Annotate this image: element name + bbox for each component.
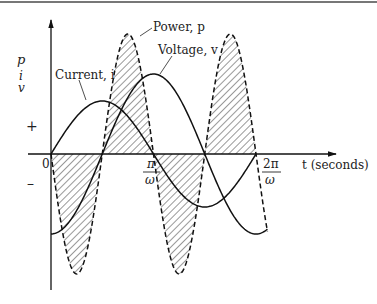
tick-pi-numerator: π bbox=[146, 157, 156, 171]
current-label: Current, i bbox=[55, 68, 115, 82]
current-leader-line bbox=[79, 80, 86, 100]
y-label-v: v bbox=[18, 81, 25, 95]
tick-pi-denominator: ω bbox=[145, 173, 155, 187]
tick-2pi-denominator: ω bbox=[265, 173, 275, 187]
power-leader-line bbox=[140, 28, 152, 36]
y-label-p: p bbox=[17, 52, 26, 67]
minus-sign: – bbox=[27, 175, 34, 191]
plus-sign: + bbox=[26, 118, 38, 134]
x-axis-label: t (seconds) bbox=[302, 158, 369, 172]
power-voltage-current-diagram: p i v + – 0 π ω 2π ω t (seconds) Power, … bbox=[0, 0, 377, 304]
power-label: Power, p bbox=[153, 20, 205, 34]
origin-label: 0 bbox=[42, 157, 50, 171]
voltage-label: Voltage, v bbox=[157, 43, 218, 57]
tick-2pi-numerator: 2π bbox=[263, 157, 279, 171]
voltage-leader-line bbox=[160, 56, 172, 74]
